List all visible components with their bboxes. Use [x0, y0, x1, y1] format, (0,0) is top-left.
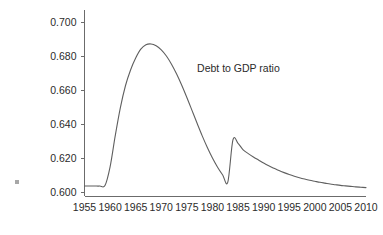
x-tick-label: 1975 — [175, 201, 199, 213]
y-tick-label: 0.640 — [50, 118, 76, 130]
x-tick-label: 1960 — [98, 201, 122, 213]
x-tick-label: 1990 — [252, 201, 276, 213]
x-tick-label: 2005 — [329, 201, 353, 213]
y-tick-label: 0.700 — [50, 16, 76, 28]
y-tick-label-group: 0.6000.6200.6400.6600.6800.700 — [50, 16, 76, 198]
x-tick-label: 1955 — [73, 201, 97, 213]
y-tick-label: 0.680 — [50, 50, 76, 62]
debt-to-gdp-chart: 0.6000.6200.6400.6600.6800.700 195519601… — [0, 0, 383, 235]
y-tick-group — [81, 23, 85, 193]
y-axis: 0.6000.6200.6400.6600.6800.700 — [50, 10, 84, 198]
x-tick-label: 2010 — [354, 201, 378, 213]
chart-svg: 0.6000.6200.6400.6600.6800.700 195519601… — [0, 0, 383, 235]
x-tick-label-group: 1955196019651970197519801985199019952000… — [73, 201, 378, 213]
x-tick-label: 1985 — [226, 201, 250, 213]
x-tick-label: 2000 — [303, 201, 327, 213]
x-tick-label: 1970 — [150, 201, 174, 213]
x-axis: 1955196019651970197519801985199019952000… — [73, 197, 378, 214]
x-tick-label: 1980 — [201, 201, 225, 213]
y-tick-label: 0.660 — [50, 84, 76, 96]
chart-annotation-label: Debt to GDP ratio — [197, 62, 280, 74]
x-tick-label: 1965 — [124, 201, 148, 213]
y-tick-label: 0.620 — [50, 152, 76, 164]
y-tick-label: 0.600 — [50, 186, 76, 198]
annotation-group: Debt to GDP ratio — [197, 62, 280, 74]
x-tick-label: 1995 — [278, 201, 302, 213]
chart-screenshot: 0.6000.6200.6400.6600.6800.700 195519601… — [0, 0, 383, 235]
